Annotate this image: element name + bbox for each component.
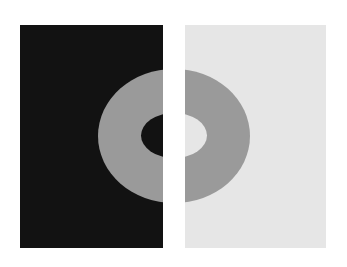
light-panel: [185, 25, 326, 248]
contrast-illusion-figure: [0, 0, 347, 267]
dark-panel: [20, 25, 163, 248]
